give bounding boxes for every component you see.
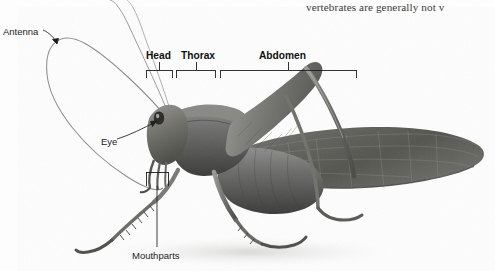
bracket-thorax bbox=[176, 62, 215, 78]
label-thorax: Thorax bbox=[181, 50, 215, 61]
label-eye: Eye bbox=[101, 136, 117, 147]
label-antenna: Antenna bbox=[3, 26, 38, 37]
bracket-mouthparts-region bbox=[146, 172, 168, 186]
bracket-head bbox=[146, 62, 172, 78]
annotation-overlay bbox=[0, 0, 495, 271]
label-abdomen: Abdomen bbox=[259, 50, 306, 61]
bracket-abdomen bbox=[220, 62, 356, 78]
label-mouthparts: Mouthparts bbox=[132, 250, 180, 261]
label-head: Head bbox=[146, 50, 171, 61]
leader-eye bbox=[117, 121, 157, 139]
figure-container: vertebrates are generally not v bbox=[0, 0, 495, 271]
leader-antenna bbox=[43, 30, 59, 44]
